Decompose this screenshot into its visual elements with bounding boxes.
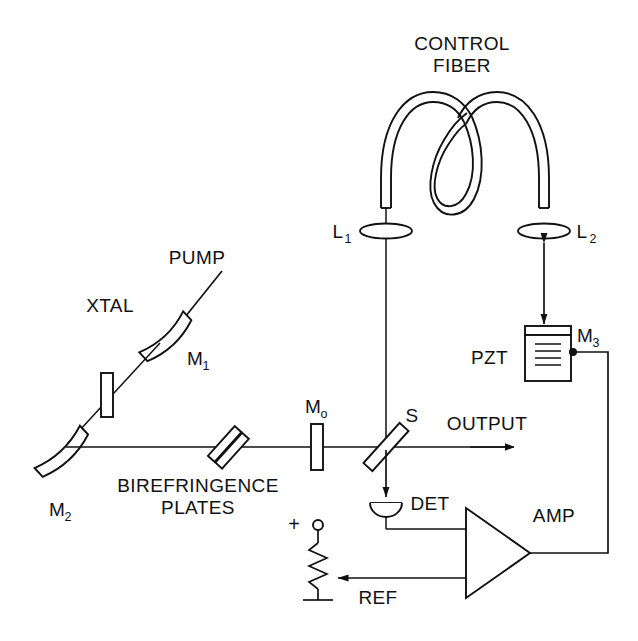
- lens-l1-sublabel: 1: [345, 232, 352, 246]
- mirror-m2-group: M 2: [35, 426, 92, 524]
- crystal-xtal-group: XTAL: [86, 295, 134, 417]
- pump-beam-group: PUMP: [169, 247, 226, 327]
- detector-label: DET: [410, 493, 449, 514]
- amplifier-amp: [466, 508, 530, 598]
- crystal-xtal-label: XTAL: [86, 295, 134, 316]
- mirror-m2: [35, 426, 92, 481]
- pzt-label: PZT: [471, 347, 508, 368]
- mirror-m1-label: M: [187, 348, 203, 369]
- amplifier-label: AMP: [533, 505, 575, 526]
- lens-l1-group: L 1: [333, 208, 412, 447]
- lens-l2-label: L: [577, 221, 588, 242]
- detector-body: [370, 503, 402, 517]
- lens-l2-group: L 2: [518, 221, 597, 324]
- mirror-m2-sublabel: 2: [65, 510, 72, 524]
- beam-splitter-group: S: [363, 405, 418, 471]
- reference-potentiometer: +: [288, 513, 333, 600]
- mirror-m0: [311, 424, 323, 470]
- birefringence-plates-group: BIREFRINGENCE PLATES: [117, 426, 278, 518]
- mirror-m3: [525, 326, 571, 335]
- amplifier-group: AMP: [466, 505, 575, 598]
- mirror-m0-group: M o: [305, 396, 328, 470]
- lens-l1: [360, 224, 412, 239]
- lens-l1-label: L: [333, 221, 344, 242]
- crystal-xtal: [101, 373, 113, 417]
- mirror-m3-label: M: [577, 325, 593, 346]
- mirror-m1-sublabel: 1: [203, 359, 210, 373]
- figure-title-line2: FIBER: [433, 55, 491, 76]
- birefringence-label-line2: PLATES: [161, 497, 235, 518]
- mirror-m0-label: M: [305, 396, 321, 417]
- supply-terminal: [313, 520, 323, 530]
- lens-l2: [518, 224, 570, 239]
- supply-plus-label: +: [288, 513, 300, 535]
- mirror-m0-sublabel: o: [321, 407, 328, 421]
- pump-label: PUMP: [169, 247, 226, 268]
- birefringence-label-line1: BIREFRINGENCE: [117, 475, 278, 496]
- optical-schematic-figure: CONTROL FIBER L 1 L 2: [0, 0, 638, 641]
- mirror-m1-group: M 1: [139, 311, 209, 373]
- figure-title-line1: CONTROL: [414, 33, 510, 54]
- mirror-m3-sublabel: 3: [593, 336, 600, 350]
- beam-splitter-label: S: [405, 405, 418, 426]
- pot-resistor-zigzag: [309, 543, 327, 589]
- lens-l2-sublabel: 2: [590, 232, 597, 246]
- output-label: OUTPUT: [447, 413, 528, 434]
- detector-group: DET: [370, 493, 450, 529]
- reference-label: REF: [358, 587, 397, 608]
- mirror-m2-label: M: [49, 499, 65, 520]
- control-fiber: [381, 92, 549, 215]
- schematic-canvas: CONTROL FIBER L 1 L 2: [0, 0, 638, 641]
